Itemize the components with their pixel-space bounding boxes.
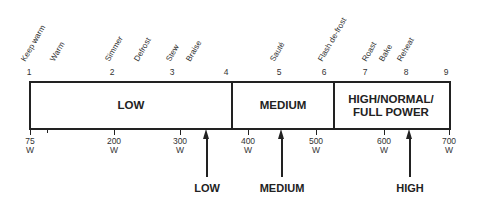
wattage-tick xyxy=(384,128,385,135)
wattage-tick xyxy=(248,128,249,135)
wattage-label: 300W xyxy=(168,137,192,155)
indicator-label-medium: MEDIUM xyxy=(247,182,317,194)
wattage-unit: W xyxy=(236,146,260,155)
function-label: Roast xyxy=(360,40,378,63)
wattage-unit: W xyxy=(437,146,461,155)
setting-number: 6 xyxy=(318,67,330,77)
minor-tick xyxy=(47,128,48,133)
wattage-label: 600W xyxy=(372,137,396,155)
function-label: Reheat xyxy=(395,36,416,63)
wattage-tick xyxy=(114,128,115,135)
arrow-shaft xyxy=(281,137,283,177)
wattage-tick xyxy=(316,128,317,135)
function-label: Flash de-frost xyxy=(316,16,348,63)
wattage-unit: W xyxy=(102,146,126,155)
wattage-unit: W xyxy=(304,146,328,155)
indicator-label-high: HIGH xyxy=(375,182,445,194)
zone-high: HIGH/NORMAL/ FULL POWER xyxy=(335,83,447,128)
setting-number: 1 xyxy=(23,67,35,77)
wattage-label: 700W xyxy=(437,137,461,155)
wattage-tick xyxy=(449,128,450,135)
wattage-unit: W xyxy=(18,146,42,155)
function-label: Defrost xyxy=(132,36,153,63)
function-label: Stew xyxy=(164,43,181,63)
function-label: Braise xyxy=(184,39,203,63)
arrow-shaft xyxy=(206,137,208,177)
function-label: Bake xyxy=(377,43,394,63)
setting-number: 3 xyxy=(166,67,178,77)
function-label: Sauté xyxy=(268,40,286,63)
arrow-shaft xyxy=(409,137,411,177)
setting-number: 7 xyxy=(359,67,371,77)
function-label: Warm xyxy=(48,40,66,63)
wattage-unit: W xyxy=(168,146,192,155)
setting-number: 9 xyxy=(440,67,452,77)
setting-number: 2 xyxy=(106,67,118,77)
zone-medium: MEDIUM xyxy=(233,83,333,128)
setting-number: 8 xyxy=(400,67,412,77)
zone-low: LOW xyxy=(31,83,231,128)
indicator-label-low: LOW xyxy=(172,182,242,194)
wattage-label: 75W xyxy=(18,137,42,155)
wattage-label: 200W xyxy=(102,137,126,155)
wattage-label: 500W xyxy=(304,137,328,155)
wattage-tick xyxy=(180,128,181,135)
function-label: Simmer xyxy=(103,35,125,63)
setting-number: 4 xyxy=(220,67,232,77)
wattage-tick xyxy=(30,128,31,135)
setting-number: 5 xyxy=(273,67,285,77)
wattage-label: 400W xyxy=(236,137,260,155)
function-label: Keep warm xyxy=(19,23,47,63)
wattage-unit: W xyxy=(372,146,396,155)
